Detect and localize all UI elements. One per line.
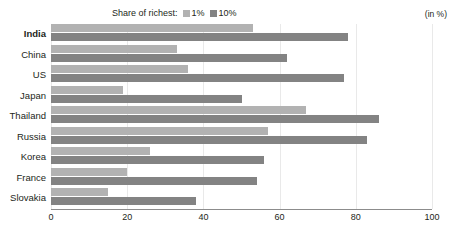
bar-group-france bbox=[51, 168, 432, 189]
gridline-100 bbox=[432, 24, 433, 209]
legend-label-10-percent: 10% bbox=[219, 8, 237, 18]
bar-thailand-1percent[interactable] bbox=[51, 106, 306, 114]
bar-india-1percent[interactable] bbox=[51, 24, 253, 32]
bar-group-korea bbox=[51, 147, 432, 168]
x-tick-0: 0 bbox=[48, 212, 53, 222]
category-label-us: US bbox=[0, 69, 46, 80]
bar-russia-1percent[interactable] bbox=[51, 127, 268, 135]
bar-slovakia-1percent[interactable] bbox=[51, 188, 108, 196]
x-tick-80: 80 bbox=[351, 212, 361, 222]
legend-title: Share of richest: bbox=[112, 8, 178, 18]
bar-group-russia bbox=[51, 127, 432, 148]
x-axis-tick-labels: 020406080100 bbox=[51, 212, 432, 228]
category-label-france: France bbox=[0, 172, 46, 183]
category-label-japan: Japan bbox=[0, 90, 46, 101]
bar-us-10percent[interactable] bbox=[51, 74, 344, 82]
legend-swatch-10-percent bbox=[210, 10, 217, 17]
bar-china-1percent[interactable] bbox=[51, 45, 177, 53]
bar-us-1percent[interactable] bbox=[51, 65, 188, 73]
bar-group-india bbox=[51, 24, 432, 45]
bar-slovakia-10percent[interactable] bbox=[51, 197, 196, 205]
bar-group-china bbox=[51, 45, 432, 66]
bar-group-slovakia bbox=[51, 188, 432, 209]
x-tick-20: 20 bbox=[122, 212, 132, 222]
bar-thailand-10percent[interactable] bbox=[51, 115, 379, 123]
category-axis-labels: IndiaChinaUSJapanThailandRussiaKoreaFran… bbox=[0, 24, 46, 209]
bar-india-10percent[interactable] bbox=[51, 33, 348, 41]
category-label-china: China bbox=[0, 49, 46, 60]
bar-france-10percent[interactable] bbox=[51, 177, 257, 185]
x-tick-40: 40 bbox=[198, 212, 208, 222]
plot-area bbox=[51, 24, 432, 209]
bar-russia-10percent[interactable] bbox=[51, 136, 367, 144]
x-axis-line bbox=[51, 209, 432, 210]
unit-note: (in %) bbox=[425, 9, 447, 19]
x-tick-60: 60 bbox=[275, 212, 285, 222]
legend-item-1-percent[interactable]: 1% bbox=[183, 8, 205, 18]
bar-group-japan bbox=[51, 86, 432, 107]
bar-korea-10percent[interactable] bbox=[51, 156, 264, 164]
category-label-thailand: Thailand bbox=[0, 110, 46, 121]
legend-label-1-percent: 1% bbox=[192, 8, 205, 18]
bar-group-us bbox=[51, 65, 432, 86]
legend-swatch-1-percent bbox=[183, 10, 190, 17]
legend-item-10-percent[interactable]: 10% bbox=[210, 8, 237, 18]
bar-china-10percent[interactable] bbox=[51, 54, 287, 62]
category-label-korea: Korea bbox=[0, 151, 46, 162]
bar-japan-10percent[interactable] bbox=[51, 95, 242, 103]
x-tick-100: 100 bbox=[424, 212, 439, 222]
category-label-slovakia: Slovakia bbox=[0, 192, 46, 203]
bar-france-1percent[interactable] bbox=[51, 168, 127, 176]
chart-legend: Share of richest: 1% 10% bbox=[112, 8, 237, 18]
bar-korea-1percent[interactable] bbox=[51, 147, 150, 155]
category-label-india: India bbox=[0, 28, 46, 39]
category-label-russia: Russia bbox=[0, 131, 46, 142]
bar-group-thailand bbox=[51, 106, 432, 127]
share-of-richest-bar-chart: Share of richest: 1% 10% (in %) IndiaChi… bbox=[0, 0, 457, 241]
bar-rows bbox=[51, 24, 432, 209]
bar-japan-1percent[interactable] bbox=[51, 86, 123, 94]
